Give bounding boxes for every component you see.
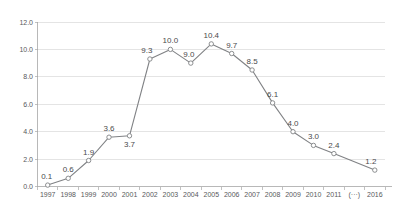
data-point-marker (209, 42, 213, 46)
data-point-label: 4.0 (287, 119, 299, 128)
x-tick-label: 2001 (122, 191, 138, 198)
y-tick-label: 0.0 (23, 183, 33, 190)
data-point-marker (332, 151, 336, 155)
x-tick-label: 2008 (265, 191, 281, 198)
data-point-label: 3.0 (308, 132, 320, 141)
data-point-marker (250, 68, 254, 72)
series-polyline (48, 44, 375, 185)
data-point-label: 1.9 (83, 148, 95, 157)
y-tick-label: 8.0 (23, 73, 33, 80)
y-tick-label: 10.0 (19, 46, 33, 53)
x-tick-labels: 1997199819992000200120022003200420052006… (40, 191, 383, 199)
data-point-label: 8.5 (247, 57, 259, 66)
x-tick-label: 2000 (101, 191, 117, 198)
data-point-marker (86, 158, 90, 162)
data-point-marker (311, 143, 315, 147)
data-point-marker (189, 61, 193, 65)
data-point-marker (66, 176, 70, 180)
data-point-label: 10.0 (163, 36, 179, 45)
x-tick-label: 2009 (285, 191, 301, 198)
chart-canvas: 0.02.04.06.08.010.012.0 1997199819992000… (0, 0, 409, 212)
x-tick-label: 2003 (163, 191, 179, 198)
x-tick-label: 2002 (142, 191, 158, 198)
data-point-label: 0.1 (41, 172, 53, 181)
data-point-marker (373, 168, 377, 172)
line-chart: 0.02.04.06.08.010.012.0 1997199819992000… (0, 0, 409, 212)
data-point-label: 0.6 (63, 165, 75, 174)
data-point-marker (168, 47, 172, 51)
y-tick-labels: 0.02.04.06.08.010.012.0 (19, 19, 37, 191)
data-point-label: 3.7 (124, 140, 136, 149)
data-point-markers (46, 42, 377, 188)
data-point-label: 9.7 (226, 41, 238, 50)
x-tick-label: 2011 (326, 191, 341, 198)
x-tick-label: 1998 (60, 191, 76, 198)
data-point-marker (291, 130, 295, 134)
data-point-label: 1.2 (365, 157, 377, 166)
x-tick-label: (···) (348, 191, 360, 199)
data-point-marker (46, 183, 50, 187)
data-point-labels: 0.10.61.93.63.79.310.09.010.49.78.56.14.… (41, 31, 377, 181)
x-tick-label: 2004 (183, 191, 199, 198)
data-point-marker (270, 101, 274, 105)
data-point-label: 3.6 (103, 124, 115, 133)
y-tick-label: 6.0 (23, 101, 33, 108)
y-tick-label: 12.0 (19, 19, 33, 26)
x-tick-label: 1997 (40, 191, 56, 198)
data-point-marker (230, 51, 234, 55)
x-tick-label: 2006 (224, 191, 240, 198)
data-point-marker (148, 57, 152, 61)
y-tick-label: 2.0 (23, 156, 33, 163)
data-point-marker (127, 134, 131, 138)
x-tick-label: 1999 (81, 191, 97, 198)
x-tick-label: 2005 (204, 191, 220, 198)
x-tick-label: 2007 (244, 191, 260, 198)
data-point-label: 9.3 (141, 46, 153, 55)
x-tick-label: 2010 (306, 191, 322, 198)
data-point-label: 2.4 (328, 141, 340, 150)
data-point-marker (107, 135, 111, 139)
data-point-label: 10.4 (204, 31, 220, 40)
data-series-line (48, 44, 375, 185)
x-tick-label: 2016 (367, 191, 383, 198)
x-tick-marks (38, 187, 386, 190)
data-point-label: 6.1 (267, 90, 279, 99)
y-tick-label: 4.0 (23, 128, 33, 135)
data-point-label: 9.0 (183, 50, 195, 59)
